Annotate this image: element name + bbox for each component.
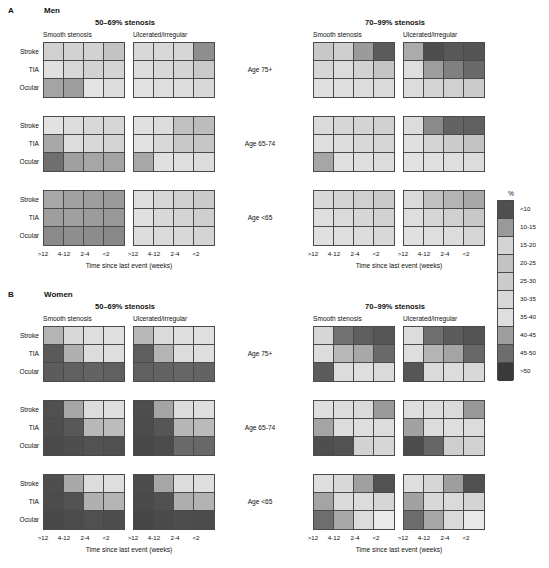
heatmap-cell[interactable] xyxy=(424,327,444,345)
heatmap-cell[interactable] xyxy=(464,191,484,209)
heatmap-cell[interactable] xyxy=(334,191,354,209)
heatmap-cell[interactable] xyxy=(64,79,84,97)
heatmap-cell[interactable] xyxy=(334,493,354,511)
heatmap-cell[interactable] xyxy=(134,401,154,419)
heatmap-cell[interactable] xyxy=(44,43,64,61)
heatmap-cell[interactable] xyxy=(424,61,444,79)
heatmap-cell[interactable] xyxy=(104,419,124,437)
legend-swatch[interactable] xyxy=(498,327,513,345)
heatmap-cell[interactable] xyxy=(174,117,194,135)
heatmap-cell[interactable] xyxy=(444,191,464,209)
heatmap-cell[interactable] xyxy=(334,437,354,455)
heatmap-cell[interactable] xyxy=(374,475,394,493)
heatmap-grid[interactable] xyxy=(403,42,485,98)
heatmap-cell[interactable] xyxy=(334,79,354,97)
heatmap-cell[interactable] xyxy=(174,437,194,455)
heatmap-cell[interactable] xyxy=(404,493,424,511)
heatmap-grid[interactable] xyxy=(313,400,395,456)
heatmap-cell[interactable] xyxy=(374,117,394,135)
heatmap-cell[interactable] xyxy=(314,475,334,493)
heatmap-cell[interactable] xyxy=(424,209,444,227)
heatmap-grid[interactable] xyxy=(133,190,215,246)
heatmap-cell[interactable] xyxy=(174,43,194,61)
heatmap-cell[interactable] xyxy=(154,475,174,493)
heatmap-cell[interactable] xyxy=(64,327,84,345)
heatmap-cell[interactable] xyxy=(154,227,174,245)
heatmap-grid[interactable] xyxy=(43,474,125,530)
heatmap-cell[interactable] xyxy=(134,227,154,245)
legend-color-strip[interactable] xyxy=(497,200,514,380)
heatmap-cell[interactable] xyxy=(44,191,64,209)
heatmap-cell[interactable] xyxy=(194,327,214,345)
heatmap-cell[interactable] xyxy=(444,227,464,245)
heatmap-cell[interactable] xyxy=(444,419,464,437)
heatmap-cell[interactable] xyxy=(374,401,394,419)
heatmap-cell[interactable] xyxy=(314,419,334,437)
heatmap-cell[interactable] xyxy=(404,363,424,381)
heatmap-grid[interactable] xyxy=(43,42,125,98)
heatmap-cell[interactable] xyxy=(464,419,484,437)
heatmap-cell[interactable] xyxy=(174,511,194,529)
heatmap-cell[interactable] xyxy=(444,345,464,363)
heatmap-cell[interactable] xyxy=(374,79,394,97)
heatmap-cell[interactable] xyxy=(354,327,374,345)
heatmap-cell[interactable] xyxy=(334,209,354,227)
heatmap-cell[interactable] xyxy=(84,79,104,97)
heatmap-cell[interactable] xyxy=(194,153,214,171)
heatmap-cell[interactable] xyxy=(104,227,124,245)
heatmap-cell[interactable] xyxy=(84,327,104,345)
heatmap-cell[interactable] xyxy=(44,419,64,437)
heatmap-cell[interactable] xyxy=(84,401,104,419)
legend-swatch[interactable] xyxy=(498,291,513,309)
heatmap-cell[interactable] xyxy=(84,153,104,171)
heatmap-cell[interactable] xyxy=(104,363,124,381)
heatmap-cell[interactable] xyxy=(374,345,394,363)
heatmap-cell[interactable] xyxy=(354,437,374,455)
heatmap-cell[interactable] xyxy=(314,79,334,97)
heatmap-cell[interactable] xyxy=(104,61,124,79)
heatmap-cell[interactable] xyxy=(314,227,334,245)
heatmap-cell[interactable] xyxy=(444,475,464,493)
heatmap-cell[interactable] xyxy=(404,227,424,245)
heatmap-cell[interactable] xyxy=(154,437,174,455)
heatmap-cell[interactable] xyxy=(374,227,394,245)
heatmap-cell[interactable] xyxy=(374,419,394,437)
heatmap-grid[interactable] xyxy=(133,116,215,172)
heatmap-cell[interactable] xyxy=(154,363,174,381)
heatmap-cell[interactable] xyxy=(424,475,444,493)
heatmap-cell[interactable] xyxy=(104,493,124,511)
heatmap-cell[interactable] xyxy=(464,43,484,61)
heatmap-cell[interactable] xyxy=(334,511,354,529)
heatmap-cell[interactable] xyxy=(84,345,104,363)
heatmap-cell[interactable] xyxy=(444,401,464,419)
heatmap-cell[interactable] xyxy=(194,43,214,61)
heatmap-cell[interactable] xyxy=(104,135,124,153)
heatmap-cell[interactable] xyxy=(354,61,374,79)
heatmap-grid[interactable] xyxy=(133,42,215,98)
heatmap-cell[interactable] xyxy=(424,419,444,437)
heatmap-cell[interactable] xyxy=(334,61,354,79)
heatmap-cell[interactable] xyxy=(314,61,334,79)
heatmap-cell[interactable] xyxy=(424,117,444,135)
heatmap-cell[interactable] xyxy=(354,227,374,245)
heatmap-cell[interactable] xyxy=(374,363,394,381)
heatmap-cell[interactable] xyxy=(134,475,154,493)
heatmap-grid[interactable] xyxy=(403,190,485,246)
legend-swatch[interactable] xyxy=(498,255,513,273)
heatmap-cell[interactable] xyxy=(464,209,484,227)
heatmap-cell[interactable] xyxy=(134,345,154,363)
heatmap-cell[interactable] xyxy=(404,327,424,345)
heatmap-cell[interactable] xyxy=(354,401,374,419)
heatmap-cell[interactable] xyxy=(424,79,444,97)
heatmap-cell[interactable] xyxy=(64,475,84,493)
heatmap-cell[interactable] xyxy=(444,153,464,171)
heatmap-cell[interactable] xyxy=(464,511,484,529)
heatmap-cell[interactable] xyxy=(64,401,84,419)
heatmap-cell[interactable] xyxy=(44,363,64,381)
heatmap-cell[interactable] xyxy=(174,79,194,97)
heatmap-cell[interactable] xyxy=(134,43,154,61)
heatmap-cell[interactable] xyxy=(464,475,484,493)
heatmap-cell[interactable] xyxy=(314,401,334,419)
heatmap-cell[interactable] xyxy=(44,327,64,345)
heatmap-cell[interactable] xyxy=(154,191,174,209)
